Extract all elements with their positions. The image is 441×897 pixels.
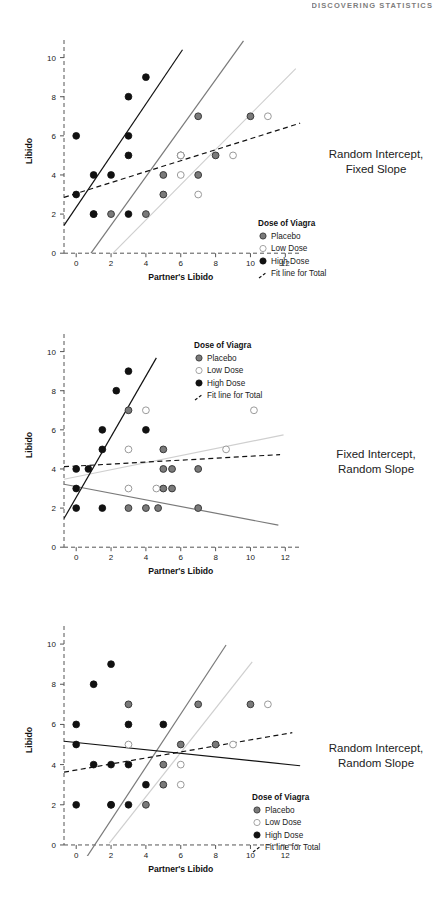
data-point-high-dose xyxy=(73,132,80,139)
legend-marker-placebo xyxy=(196,355,202,361)
data-point-high-dose xyxy=(90,211,97,218)
data-point-placebo xyxy=(160,761,167,768)
legend-label-fit-line-for-total: Fit line for Total xyxy=(271,269,327,278)
data-point-placebo xyxy=(143,211,150,218)
data-point-high-dose xyxy=(73,191,80,198)
x-tick-label: 0 xyxy=(74,259,79,268)
data-point-placebo xyxy=(177,741,184,748)
data-point-placebo xyxy=(195,505,202,512)
data-point-low-dose xyxy=(153,485,160,492)
y-axis-title: Libido xyxy=(24,727,34,753)
data-point-placebo xyxy=(125,407,132,414)
data-point-placebo xyxy=(160,446,167,453)
x-tick-label: 6 xyxy=(179,259,184,268)
legend-label-placebo: Placebo xyxy=(207,354,237,363)
data-point-high-dose xyxy=(125,152,132,159)
data-point-low-dose xyxy=(177,152,184,159)
data-point-high-dose xyxy=(73,721,80,728)
x-tick-label: 6 xyxy=(179,553,184,562)
data-point-placebo xyxy=(160,781,167,788)
data-point-low-dose xyxy=(125,446,132,453)
data-point-high-dose xyxy=(108,801,115,808)
data-point-high-dose xyxy=(99,446,106,453)
legend-marker-low-dose xyxy=(254,819,260,825)
scatter-plot-2: 0246810120246810Partner's LibidoLibidoDo… xyxy=(18,604,310,892)
y-tick-label: 0 xyxy=(52,543,57,552)
y-tick-label: 6 xyxy=(52,132,57,141)
panel-annotation-line-2nd: Fixed Slope xyxy=(312,162,440,177)
data-point-low-dose xyxy=(125,741,132,748)
data-point-high-dose xyxy=(143,426,150,433)
legend-label-low-dose: Low Dose xyxy=(271,244,308,253)
legend-marker-high-dose xyxy=(254,832,260,838)
fit-line-low-dose xyxy=(109,662,252,843)
data-point-high-dose xyxy=(125,93,132,100)
y-tick-label: 8 xyxy=(52,387,57,396)
x-tick-label: 12 xyxy=(281,851,290,860)
y-tick-label: 0 xyxy=(52,249,57,258)
legend-marker-placebo xyxy=(260,233,266,239)
data-point-high-dose xyxy=(125,761,132,768)
x-axis-title: Partner's Libido xyxy=(148,566,213,576)
legend-label-fit-line-for-total: Fit line for Total xyxy=(207,391,263,400)
data-point-placebo xyxy=(160,191,167,198)
panel-annotation-2: Random Intercept, Random Slope xyxy=(312,741,440,771)
fit-line-placebo xyxy=(86,645,226,858)
data-point-high-dose xyxy=(85,466,92,473)
data-point-high-dose xyxy=(125,211,132,218)
data-point-placebo xyxy=(212,152,219,159)
running-header: DISCOVERING STATISTICS xyxy=(312,0,433,9)
scatter-plot-0: 0246810120246810Partner's LibidoLibidoDo… xyxy=(18,18,310,300)
panel-annotation-line-1: Fixed Intercept, xyxy=(312,447,440,462)
legend-label-high-dose: High Dose xyxy=(207,379,246,388)
legend-marker-fit-line xyxy=(195,394,203,400)
data-point-placebo xyxy=(195,172,202,179)
data-point-placebo xyxy=(169,466,176,473)
y-tick-label: 4 xyxy=(52,171,57,180)
legend-label-low-dose: Low Dose xyxy=(207,366,244,375)
y-tick-label: 8 xyxy=(52,93,57,102)
y-tick-label: 2 xyxy=(52,801,57,810)
data-point-low-dose xyxy=(251,407,258,414)
data-point-placebo xyxy=(160,466,167,473)
data-point-placebo xyxy=(160,172,167,179)
data-point-placebo xyxy=(160,485,167,492)
data-point-low-dose xyxy=(177,172,184,179)
data-point-placebo xyxy=(169,485,176,492)
data-point-placebo xyxy=(108,211,115,218)
data-point-high-dose xyxy=(125,132,132,139)
y-tick-label: 2 xyxy=(52,504,57,513)
data-point-placebo xyxy=(195,701,202,708)
data-point-low-dose xyxy=(230,152,237,159)
panel-annotation-line-2: Random Intercept, xyxy=(312,741,440,756)
data-point-high-dose xyxy=(108,661,115,668)
legend-marker-fit-line xyxy=(259,272,267,278)
data-point-high-dose xyxy=(73,741,80,748)
data-point-placebo xyxy=(212,741,219,748)
data-point-low-dose xyxy=(264,113,271,120)
data-point-placebo xyxy=(143,801,150,808)
legend-label-placebo: Placebo xyxy=(271,232,301,241)
y-tick-label: 6 xyxy=(52,720,57,729)
legend-title: Dose of Viagra xyxy=(194,341,252,350)
legend-marker-low-dose xyxy=(196,367,202,373)
data-point-low-dose xyxy=(177,781,184,788)
fit-line-total xyxy=(64,123,300,197)
x-tick-label: 8 xyxy=(213,851,218,860)
data-point-placebo xyxy=(247,113,254,120)
panel-annotation-1: Fixed Intercept, Random Slope xyxy=(312,447,440,477)
legend-label-low-dose: Low Dose xyxy=(265,818,302,827)
data-point-low-dose xyxy=(195,191,202,198)
data-point-high-dose xyxy=(125,801,132,808)
x-tick-label: 2 xyxy=(109,259,114,268)
data-point-low-dose xyxy=(230,741,237,748)
data-point-low-dose xyxy=(143,407,150,414)
legend-label-fit-line-for-total: Fit line for Total xyxy=(265,843,321,852)
data-point-high-dose xyxy=(125,368,132,375)
data-point-placebo xyxy=(247,701,254,708)
data-point-high-dose xyxy=(90,761,97,768)
data-point-high-dose xyxy=(73,485,80,492)
plot-area-0: 0246810120246810Partner's LibidoLibidoDo… xyxy=(18,18,310,300)
data-point-low-dose xyxy=(125,485,132,492)
data-point-high-dose xyxy=(113,387,120,394)
